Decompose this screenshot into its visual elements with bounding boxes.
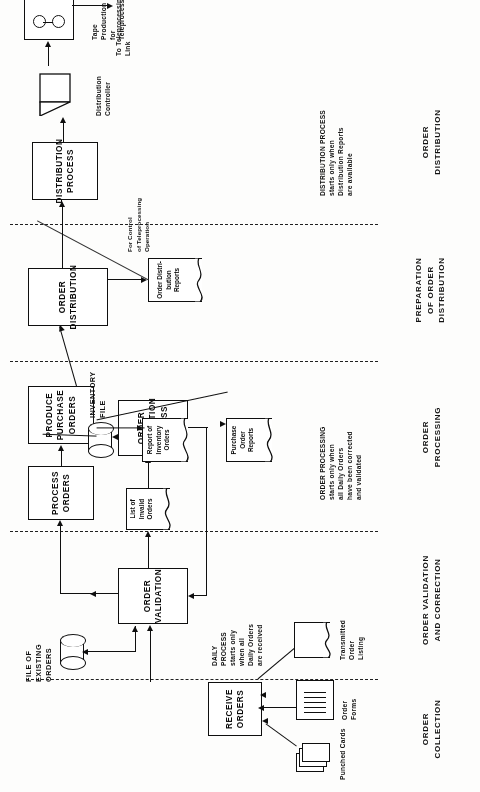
- annotation-order-processing: ORDER PROCESSING starts only when all Da…: [318, 380, 363, 500]
- process-order-validation: ORDER VALIDATION: [118, 568, 188, 624]
- transmitted-order-listing-icon: [294, 622, 330, 658]
- annotation-for-control: For Control of Teleprocessing Operation: [126, 152, 152, 252]
- line-correction-feedback-v: [188, 427, 208, 428]
- process-process-orders: PROCESS ORDERS: [28, 466, 94, 520]
- line-controller-to-tape: [48, 46, 49, 66]
- line-file-to-validation: [84, 651, 136, 652]
- arrowhead-receive-to-validation: [147, 625, 153, 631]
- arrow-cards-to-receive: [266, 723, 297, 746]
- document-report-of-inventory-orders: Report of Inventory Orders: [142, 418, 188, 462]
- arrowhead-controller-to-tape: [45, 41, 51, 47]
- scan-canvas: ORDER COLLECTION ORDER VALIDATION AND CO…: [0, 0, 480, 792]
- divider-preparation-distribution: [10, 224, 378, 225]
- arrowhead-to-inventory-file: [112, 434, 118, 440]
- rotated-diagram-wrapper: ORDER COLLECTION ORDER VALIDATION AND CO…: [0, 0, 480, 792]
- document-purchase-order-reports: Purchase Order Reports: [226, 418, 272, 462]
- punched-cards-icon: [296, 738, 328, 772]
- line-tape-to-teleprocessing: [72, 5, 108, 6]
- line-order-dist-to-reports-v: [108, 279, 142, 280]
- arrowhead-file-to-validation: [132, 626, 138, 632]
- line-distribution-process-to-controller: [63, 120, 64, 142]
- arrow-produce-to-order-distribution: [59, 326, 77, 386]
- label-order-forms: Order Forms: [340, 660, 358, 720]
- process-order-distribution: ORDER DISTRIBUTION: [28, 268, 108, 326]
- arrowhead-to-purchase-reports: [220, 421, 226, 427]
- file-of-existing-orders-icon: [60, 634, 84, 670]
- label-distribution-controller: Distribution Controller: [94, 36, 112, 116]
- line-order-dist-to-distribution-process: [62, 206, 63, 268]
- phase-label-preparation: PREPARATION OF ORDER DISTRIBUTION: [413, 234, 448, 346]
- phase-label-order-processing: ORDER PROCESSING: [420, 382, 443, 492]
- arrowhead-validation-up: [57, 520, 63, 526]
- flowchart: ORDER COLLECTION ORDER VALIDATION AND CO…: [0, 0, 480, 792]
- arrowhead-process-to-produce: [58, 445, 64, 451]
- phase-label-order-distribution: ORDER DISTRIBUTION: [420, 82, 443, 202]
- distribution-controller-icon: [36, 66, 80, 116]
- arrowhead-order-dist-to-distribution-process: [59, 201, 65, 207]
- label-file-of-existing-orders: FILE OF EXISTING ORDERS: [24, 610, 54, 682]
- arrowhead-to-controller: [60, 117, 66, 123]
- label-purchase-order-reports: Purchase Order Reports: [226, 418, 260, 462]
- arrowhead-tape-to-teleprocessing: [107, 4, 113, 10]
- phase-label-order-validation: ORDER VALIDATION AND CORRECTION: [420, 538, 443, 662]
- arrowhead-correction-feedback: [188, 594, 194, 600]
- line-process-to-produce: [61, 450, 62, 466]
- label-transmitted-order-listing: Transmitted Order Listing: [338, 590, 365, 660]
- label-order-distribution-reports: Order Distri- bution Reports: [148, 258, 190, 302]
- label-punched-cards: Punched Cards: [338, 710, 347, 780]
- line-validation-up: [60, 593, 118, 594]
- arrowhead-validation-to-invalid-list: [145, 531, 151, 537]
- scanned-figure-page: ORDER COLLECTION ORDER VALIDATION AND CO…: [0, 0, 480, 792]
- line-correction-feedback-h: [206, 428, 207, 596]
- line-invalid-list-to-correction: [148, 462, 149, 488]
- divider-processing-preparation: [10, 361, 378, 362]
- phase-label-order-collection: ORDER COLLECTION: [420, 684, 443, 774]
- arrowhead-cards-to-receive: [262, 718, 268, 724]
- order-forms-icon: [296, 680, 334, 720]
- line-validation-up-h: [60, 524, 61, 594]
- arrowhead-produce-to-order-distribution: [57, 324, 64, 331]
- label-report-of-inventory-orders: Report of Inventory Orders: [142, 418, 176, 462]
- process-distribution-process: DISTRIBUTION PROCESS: [32, 142, 98, 200]
- process-receive-orders: RECEIVE ORDERS: [208, 682, 262, 736]
- label-inventory-file: INVENTORY FILE: [88, 360, 108, 418]
- line-forms-to-receive: [264, 707, 296, 708]
- arrowhead-to-report-inventory: [137, 426, 143, 432]
- arrowhead-listing-to-receive: [260, 692, 266, 698]
- magnetic-tape-unit-icon: [24, 0, 74, 40]
- line-correction-feedback-up: [194, 595, 207, 596]
- label-to-teleprocessing-link: To Teleprocessing Link: [114, 0, 132, 56]
- document-order-distribution-reports: Order Distri- bution Reports: [148, 258, 202, 302]
- document-list-of-invalid-orders: List of Invalid Orders: [126, 488, 170, 530]
- annotation-daily-process: DAILY PROCESS starts only when all Daily…: [210, 574, 265, 666]
- arrowhead-forms-to-receive: [258, 706, 264, 712]
- divider-validation-processing: [10, 531, 378, 532]
- line-receive-to-validation: [150, 630, 151, 682]
- arrowhead-validation-to-file: [82, 650, 88, 656]
- line-validation-to-invalid-list: [148, 536, 149, 568]
- annotation-distribution-process: DISTRIBUTION PROCESS starts only when Di…: [318, 66, 354, 196]
- label-list-of-invalid-orders: List of Invalid Orders: [126, 488, 158, 530]
